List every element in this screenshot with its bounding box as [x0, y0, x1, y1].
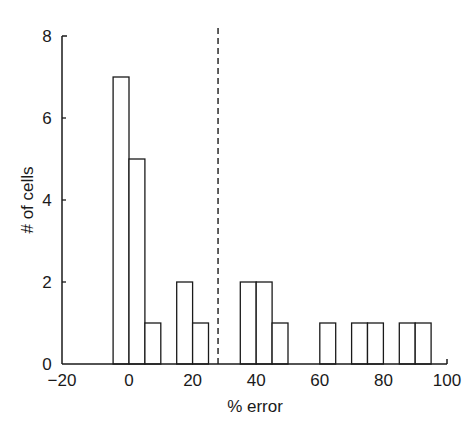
y-tick-label: 4 — [42, 191, 51, 210]
y-tick-label: 8 — [42, 27, 51, 46]
histogram-bar — [399, 323, 415, 364]
histogram-bar — [113, 77, 129, 364]
histogram-bar — [352, 323, 368, 364]
x-tick-label: −20 — [48, 371, 77, 390]
y-tick-label: 6 — [42, 109, 51, 128]
histogram-bar — [415, 323, 431, 364]
x-axis-ticks: −20020406080100 — [48, 371, 462, 390]
x-tick-label: 60 — [310, 371, 329, 390]
x-tick-label: 80 — [374, 371, 393, 390]
y-axis-label: # of cells — [18, 166, 37, 233]
histogram-bar — [240, 282, 256, 364]
histogram-bar — [320, 323, 336, 364]
plot-area: 02468 −20020406080100 % error # of cells — [0, 0, 474, 428]
x-tick-label: 40 — [247, 371, 266, 390]
histogram-bar — [272, 323, 288, 364]
y-tick-label: 2 — [42, 273, 51, 292]
histogram-bar — [256, 282, 272, 364]
histogram-chart: 02468 −20020406080100 % error # of cells — [0, 0, 474, 428]
x-axis-label: % error — [227, 397, 283, 416]
x-tick-label: 20 — [183, 371, 202, 390]
histogram-bars — [113, 77, 431, 364]
histogram-bar — [368, 323, 384, 364]
histogram-bar — [193, 323, 209, 364]
histogram-bar — [129, 159, 145, 364]
x-tick-label: 0 — [124, 371, 133, 390]
histogram-bar — [177, 282, 193, 364]
histogram-bar — [145, 323, 161, 364]
x-tick-label: 100 — [433, 371, 461, 390]
